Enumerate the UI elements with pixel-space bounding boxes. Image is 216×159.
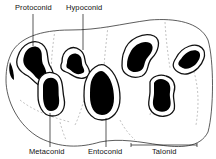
label-entoconid: Entoconid: [88, 148, 122, 156]
metaconid-cusp: [38, 73, 65, 117]
label-metaconid: Metaconid: [29, 148, 65, 156]
tooth-diagram: [0, 0, 216, 159]
entoconid-cusp: [84, 65, 120, 120]
label-talonid: Talonid: [152, 148, 176, 156]
mesial-sliver: [9, 62, 14, 80]
talonid-cusp: [149, 75, 175, 116]
right-upper-cusp: [122, 35, 158, 77]
label-protoconid: Protoconid: [15, 4, 52, 12]
label-hypoconid: Hypoconid: [66, 4, 102, 12]
hypoconid-cusp: [61, 48, 90, 79]
right-far-cusp: [173, 45, 204, 74]
